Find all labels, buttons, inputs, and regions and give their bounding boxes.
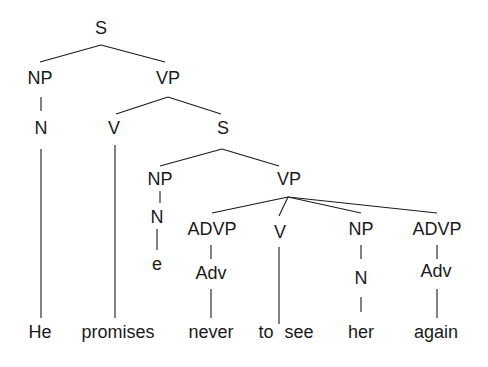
- node-np-subject: NP: [27, 68, 52, 88]
- node-v-main: V: [108, 118, 120, 138]
- node-s-root: S: [95, 18, 107, 38]
- edge-vp-s: [168, 97, 221, 114]
- word-he: He: [28, 322, 51, 342]
- edge-vp2-v: [279, 197, 288, 216]
- node-n-embedded: N: [151, 207, 164, 227]
- word-never: never: [188, 322, 233, 342]
- node-np-embedded: NP: [147, 169, 172, 189]
- node-v-embedded: V: [274, 222, 286, 242]
- edge-s2-vp: [222, 149, 279, 166]
- edge-s-vp: [101, 45, 165, 62]
- node-n-subject: N: [35, 118, 48, 138]
- tree-edges: [40, 45, 437, 324]
- node-n-object: N: [355, 268, 368, 288]
- word-her: her: [348, 322, 374, 342]
- node-s-embedded: S: [217, 118, 229, 138]
- word-again: again: [414, 322, 458, 342]
- node-vp-main: VP: [156, 68, 180, 88]
- word-to: to: [258, 322, 273, 342]
- tree-words: He promises never to see her again: [28, 322, 458, 342]
- edge-s-np: [40, 45, 101, 62]
- node-vp-embedded: VP: [277, 169, 301, 189]
- edge-s2-np: [160, 149, 222, 166]
- syntax-tree-diagram: S NP VP N V S NP VP N e ADVP V NP ADVP A…: [0, 0, 488, 367]
- node-advp-2: ADVP: [412, 219, 461, 239]
- word-promises: promises: [81, 322, 154, 342]
- node-empty-e: e: [152, 254, 162, 274]
- node-np-object: NP: [348, 219, 373, 239]
- edge-vp2-np: [288, 197, 361, 213]
- node-advp-1: ADVP: [187, 219, 236, 239]
- edge-vp2-advp1: [212, 197, 288, 213]
- word-see: see: [284, 322, 313, 342]
- node-adv-1: Adv: [195, 263, 226, 283]
- node-adv-2: Adv: [420, 261, 451, 281]
- tree-nodes: S NP VP N V S NP VP N e ADVP V NP ADVP A…: [27, 18, 461, 288]
- edge-vp2-advp2: [288, 197, 437, 213]
- edge-vp-v: [116, 97, 168, 114]
